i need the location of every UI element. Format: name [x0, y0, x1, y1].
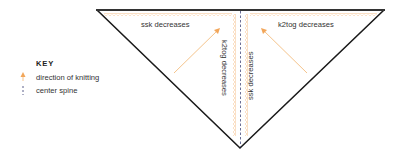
legend-title: KEY: [36, 59, 54, 68]
legend-label-spine: center spine: [36, 86, 77, 95]
legend-label-direction: direction of knitting: [36, 73, 99, 82]
label-top-right: k2tog decreases: [278, 20, 334, 29]
top-right-decrease-edge: [250, 13, 377, 16]
arrow-up-icon: [21, 72, 26, 81]
label-spine-left: k2tog decreases: [220, 40, 229, 96]
legend: KEY direction of knitting center spine: [21, 59, 100, 95]
arrow-left-direction-icon: [174, 28, 220, 73]
label-top-left: ssk decreases: [141, 20, 190, 29]
shawl-diagram: ssk decreases k2tog decreases k2tog decr…: [0, 0, 402, 153]
spine-left-decrease-edge: [233, 14, 236, 136]
top-left-decrease-edge: [104, 13, 232, 16]
arrow-right-direction-icon: [261, 28, 307, 73]
label-spine-right: ssk decreases: [246, 51, 255, 100]
